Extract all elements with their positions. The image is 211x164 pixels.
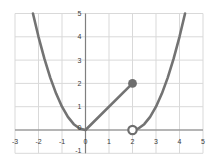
y-tick-label: 1 xyxy=(78,103,82,110)
x-tick-label: 3 xyxy=(154,138,158,145)
x-tick-label: -3 xyxy=(12,138,18,145)
x-tick-label: 4 xyxy=(178,138,182,145)
closed-endpoint-marker xyxy=(128,79,137,88)
x-tick-label: 2 xyxy=(131,138,135,145)
x-tick-label: 1 xyxy=(107,138,111,145)
curve-left-parabola xyxy=(33,14,86,131)
open-endpoint-marker xyxy=(128,126,136,134)
y-tick-label: 4 xyxy=(78,33,82,40)
x-tick-label: 0 xyxy=(84,138,88,145)
chart-canvas: -3-2-1012345543210-1 xyxy=(0,0,211,164)
x-tick-label: -2 xyxy=(35,138,41,145)
x-tick-label: -1 xyxy=(59,138,65,145)
y-tick-label: 5 xyxy=(78,10,82,17)
y-tick-label: 0 xyxy=(78,124,82,131)
y-tick-label: 3 xyxy=(78,57,82,64)
y-tick-label: -1 xyxy=(75,147,81,154)
y-tick-label: 2 xyxy=(78,80,82,87)
x-tick-label: 5 xyxy=(201,138,205,145)
curve-right-parabola xyxy=(133,14,186,131)
piecewise-function-plot: -3-2-1012345543210-1 xyxy=(0,0,211,164)
